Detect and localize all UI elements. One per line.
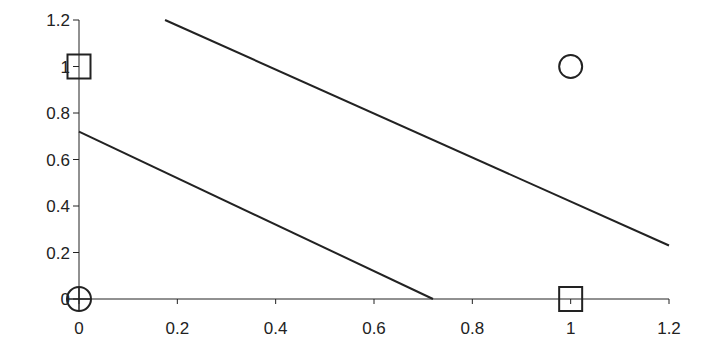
circle-marker bbox=[559, 55, 582, 78]
y-tick-label: 0.8 bbox=[46, 104, 70, 123]
x-tick-label: 0 bbox=[74, 319, 83, 338]
x-tick-label: 1.2 bbox=[657, 319, 681, 338]
lower-boundary-line bbox=[79, 132, 433, 299]
x-tick-label: 0.6 bbox=[362, 319, 386, 338]
x-tick-label: 0.2 bbox=[166, 319, 190, 338]
x-tick-label: 1 bbox=[566, 319, 575, 338]
plot-area: 00.20.40.60.811.200.20.40.60.811.2 bbox=[0, 0, 718, 360]
x-tick-label: 0.4 bbox=[264, 319, 288, 338]
y-tick-label: 0.6 bbox=[46, 151, 70, 170]
x-tick-label: 0.8 bbox=[461, 319, 485, 338]
y-tick-label: 0.4 bbox=[46, 197, 70, 216]
y-tick-label: 0.2 bbox=[46, 244, 70, 263]
upper-boundary-line bbox=[165, 20, 669, 246]
scatter-chart: 00.20.40.60.811.200.20.40.60.811.2 bbox=[0, 0, 718, 360]
y-tick-label: 1 bbox=[61, 58, 70, 77]
y-tick-label: 1.2 bbox=[46, 11, 70, 30]
data-points bbox=[67, 55, 582, 312]
axes: 00.20.40.60.811.200.20.40.60.811.2 bbox=[46, 11, 680, 338]
